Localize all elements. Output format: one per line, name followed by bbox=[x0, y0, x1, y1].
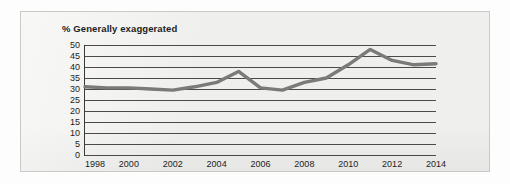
y-axis-tick-labels: 50454035302520151050 bbox=[56, 45, 80, 155]
chart-screenshot: % Generally exaggerated 5045403530252015… bbox=[0, 0, 510, 184]
y-tick-label-50: 50 bbox=[58, 41, 80, 50]
y-tick-label-35: 35 bbox=[58, 74, 80, 83]
y-tick-label-30: 30 bbox=[58, 85, 80, 94]
y-tick-label-40: 40 bbox=[58, 63, 80, 72]
x-tick-label-2006: 2006 bbox=[250, 159, 270, 169]
plot-area bbox=[85, 45, 436, 155]
y-tick-label-0: 0 bbox=[58, 151, 80, 160]
y-tick-label-10: 10 bbox=[58, 129, 80, 138]
y-tick-label-20: 20 bbox=[58, 107, 80, 116]
y-tick-label-45: 45 bbox=[58, 52, 80, 61]
y-tick-label-5: 5 bbox=[58, 140, 80, 149]
data-series-line bbox=[85, 45, 436, 155]
x-tick-label-2004: 2004 bbox=[207, 159, 227, 169]
x-tick-label-2002: 2002 bbox=[163, 159, 183, 169]
x-tick-label-1998: 1998 bbox=[85, 159, 105, 169]
x-tick-label-2008: 2008 bbox=[294, 159, 314, 169]
x-tick-label-2012: 2012 bbox=[382, 159, 402, 169]
x-axis-tick-labels: 199820002002200420062008201020122014 bbox=[85, 159, 436, 173]
chart-title: % Generally exaggerated bbox=[62, 23, 177, 34]
gridline-0 bbox=[85, 155, 436, 156]
x-tick-label-2010: 2010 bbox=[338, 159, 358, 169]
x-tick-label-2000: 2000 bbox=[119, 159, 139, 169]
x-tick-label-2014: 2014 bbox=[426, 159, 446, 169]
y-tick-label-25: 25 bbox=[58, 96, 80, 105]
y-tick-label-15: 15 bbox=[58, 118, 80, 127]
